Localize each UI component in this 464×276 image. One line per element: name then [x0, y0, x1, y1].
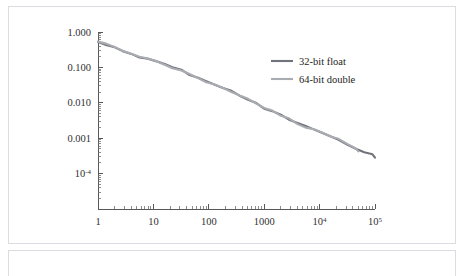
legend-label-1: 32-bit float	[299, 56, 346, 67]
x-tick-label: 1	[95, 216, 100, 227]
y-tick-label: 10-4	[75, 168, 92, 180]
legend-label-2: 64-bit double	[299, 74, 356, 85]
x-tick-label: 10	[148, 216, 159, 227]
y-tick-label: 1.000	[67, 27, 91, 38]
y-tick-label: 0.100	[67, 62, 91, 73]
x-tick-label: 105	[368, 216, 383, 228]
y-tick-label: 0.010	[67, 97, 91, 108]
x-tick-label: 104	[313, 216, 328, 228]
convergence-chart: 1.0000.1000.0100.00110-41101001000104105…	[9, 7, 457, 245]
y-tick-label: 0.001	[67, 133, 91, 144]
x-tick-label: 100	[201, 216, 217, 227]
figure-panel: 1.0000.1000.0100.00110-41101001000104105…	[8, 6, 456, 244]
chart-plot-area: 1.0000.1000.0100.00110-41101001000104105…	[9, 7, 457, 245]
caption-panel	[8, 250, 456, 276]
x-tick-label: 1000	[254, 216, 275, 227]
